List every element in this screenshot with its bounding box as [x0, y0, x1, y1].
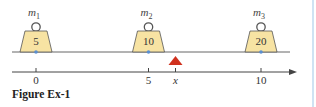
- mass-subscript: 1: [36, 12, 40, 21]
- contact-dot: [34, 50, 38, 54]
- weight-1: 5m1: [20, 6, 52, 54]
- weight-value: 5: [33, 35, 39, 47]
- pivot-triangle-icon: [169, 56, 183, 65]
- weight-handle-icon: [144, 23, 152, 31]
- axis-tick-label: 5: [146, 74, 152, 86]
- weight-handle-icon: [257, 23, 265, 31]
- mass-label: m2: [141, 6, 153, 21]
- weight-value: 10: [143, 35, 155, 47]
- weight-value: 20: [256, 35, 268, 47]
- weight-handle-icon: [32, 23, 40, 31]
- mass-label: m1: [28, 6, 40, 21]
- weight-2: 10m2: [133, 6, 165, 54]
- weight-3: 20m3: [245, 6, 277, 54]
- mass-label: m3: [253, 6, 265, 21]
- seesaw-figure: 5m110m220m3 05x10 Figure Ex-1: [0, 0, 316, 107]
- axis-tick-label: 0: [33, 74, 39, 86]
- axis-tick-label: 10: [256, 74, 268, 86]
- axis-tick-label: x: [172, 74, 178, 86]
- mass-subscript: 3: [261, 12, 265, 21]
- contact-dot: [259, 50, 263, 54]
- axis-arrow-icon: [289, 69, 297, 75]
- contact-dot: [147, 50, 151, 54]
- mass-subscript: 2: [148, 12, 152, 21]
- figure-caption: Figure Ex-1: [12, 88, 70, 101]
